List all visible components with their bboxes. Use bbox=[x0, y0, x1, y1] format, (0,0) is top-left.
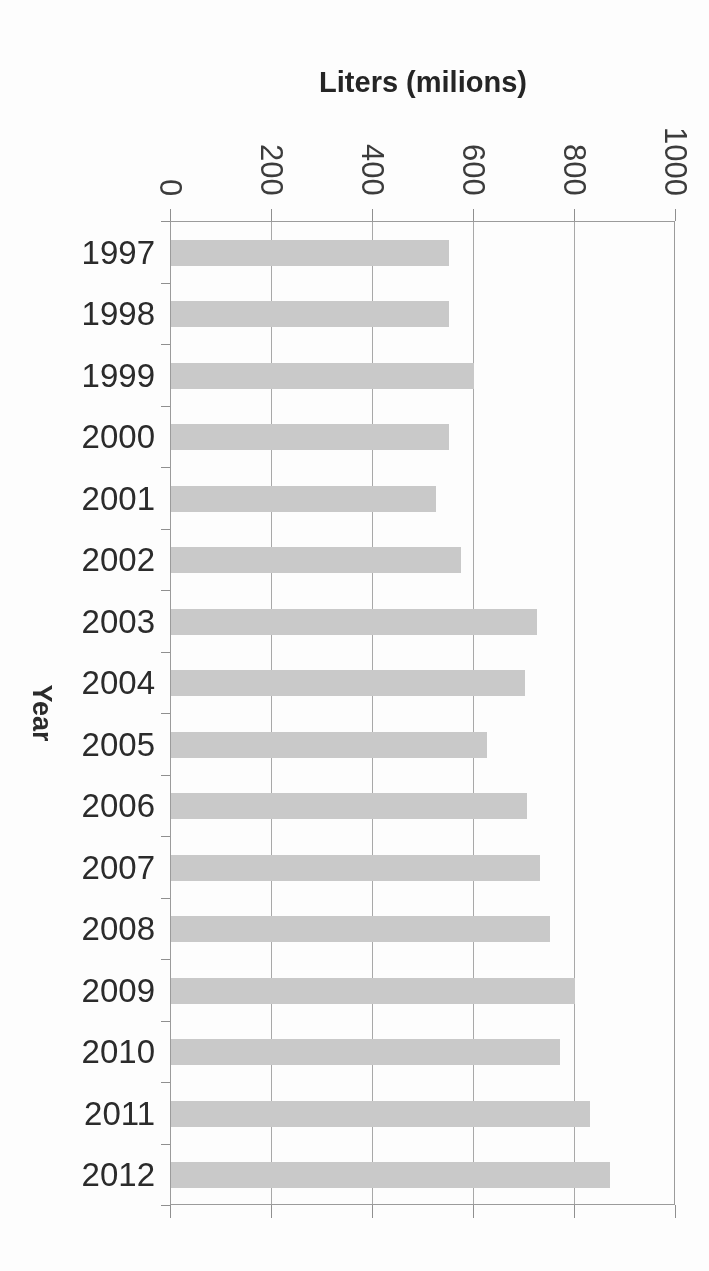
category-axis-tick bbox=[161, 775, 170, 776]
bar bbox=[171, 732, 487, 758]
bar bbox=[171, 1101, 590, 1127]
bar bbox=[171, 486, 436, 512]
category-axis-tick bbox=[161, 1021, 170, 1022]
year-label: 2008 bbox=[52, 912, 155, 945]
year-label: 2009 bbox=[52, 974, 155, 1007]
category-axis-tick bbox=[161, 344, 170, 345]
category-axis-tick bbox=[161, 406, 170, 407]
value-axis-tick-label: 800 bbox=[559, 144, 590, 196]
plot-area bbox=[170, 221, 675, 1205]
value-axis-bottom-tick bbox=[574, 1205, 575, 1218]
bar bbox=[171, 916, 550, 942]
value-axis-tick-label: 0 bbox=[155, 179, 186, 196]
category-axis-tick bbox=[161, 652, 170, 653]
chart-title: Liters (milions) bbox=[319, 66, 527, 99]
year-label: 2000 bbox=[52, 420, 155, 453]
bar bbox=[171, 793, 527, 819]
value-axis-top-tick bbox=[372, 209, 373, 221]
value-axis-tick-label: 400 bbox=[357, 144, 388, 196]
category-axis-tick bbox=[161, 221, 170, 222]
bar bbox=[171, 547, 461, 573]
y-axis-title: Year bbox=[28, 684, 55, 741]
year-label: 2011 bbox=[52, 1097, 155, 1130]
bar bbox=[171, 609, 537, 635]
category-axis-tick bbox=[161, 1082, 170, 1083]
year-label: 2003 bbox=[52, 605, 155, 638]
year-label: 2004 bbox=[52, 666, 155, 699]
category-axis-tick bbox=[161, 898, 170, 899]
year-label: 1998 bbox=[52, 297, 155, 330]
category-axis-tick bbox=[161, 590, 170, 591]
category-axis-tick bbox=[161, 836, 170, 837]
bar bbox=[171, 301, 449, 327]
year-label: 2006 bbox=[52, 789, 155, 822]
scanned-bar-chart: Liters (milions) Year 02004006008001000 … bbox=[0, 0, 709, 1271]
year-label: 2012 bbox=[52, 1158, 155, 1191]
category-axis-tick bbox=[161, 1205, 170, 1206]
value-axis-bottom-tick bbox=[473, 1205, 474, 1218]
category-axis-tick bbox=[161, 1144, 170, 1145]
category-axis-tick bbox=[161, 467, 170, 468]
value-axis-tick-label: 200 bbox=[256, 144, 287, 196]
value-axis-bottom-tick bbox=[675, 1205, 676, 1218]
bar bbox=[171, 670, 525, 696]
year-label: 2007 bbox=[52, 851, 155, 884]
bar bbox=[171, 240, 449, 266]
year-label: 2001 bbox=[52, 482, 155, 515]
value-axis-bottom-tick bbox=[271, 1205, 272, 1218]
bar bbox=[171, 855, 540, 881]
bar bbox=[171, 1162, 610, 1188]
bar bbox=[171, 978, 575, 1004]
year-label: 1999 bbox=[52, 359, 155, 392]
bar bbox=[171, 424, 449, 450]
value-axis-bottom-tick bbox=[372, 1205, 373, 1218]
category-axis-tick bbox=[161, 959, 170, 960]
category-axis-tick bbox=[161, 713, 170, 714]
value-axis-top-tick bbox=[574, 209, 575, 221]
category-axis-tick bbox=[161, 283, 170, 284]
value-axis-top-tick bbox=[271, 209, 272, 221]
value-axis-top-tick bbox=[170, 209, 171, 221]
year-label: 2002 bbox=[52, 543, 155, 576]
year-label: 1997 bbox=[52, 236, 155, 269]
bar bbox=[171, 363, 474, 389]
gridline bbox=[574, 222, 575, 1204]
value-axis-top-tick bbox=[675, 209, 676, 221]
bar bbox=[171, 1039, 560, 1065]
year-label: 2005 bbox=[52, 728, 155, 761]
category-axis-tick bbox=[161, 529, 170, 530]
value-axis-tick-label: 1000 bbox=[660, 127, 691, 196]
value-axis-top-tick bbox=[473, 209, 474, 221]
value-axis-tick-label: 600 bbox=[458, 144, 489, 196]
value-axis-bottom-tick bbox=[170, 1205, 171, 1218]
year-label: 2010 bbox=[52, 1035, 155, 1068]
